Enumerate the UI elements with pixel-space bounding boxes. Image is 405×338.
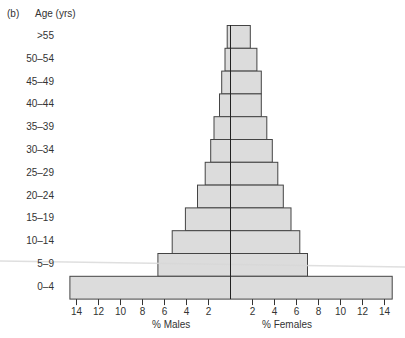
population-pyramid-chart bbox=[0, 0, 405, 338]
bar-4 bbox=[214, 117, 267, 140]
age-group-label: 35–39 bbox=[0, 121, 54, 132]
age-group-label: 10–14 bbox=[0, 235, 54, 246]
x-tick-label-males: 2 bbox=[199, 306, 219, 317]
x-tick-label-males: 8 bbox=[133, 306, 153, 317]
bar-1 bbox=[225, 48, 257, 71]
panel-label: (b) bbox=[7, 8, 19, 19]
x-tick-label-males: 10 bbox=[111, 306, 131, 317]
bar-5 bbox=[211, 140, 273, 163]
age-group-label: 50–54 bbox=[0, 53, 54, 64]
x-tick-label-females: 2 bbox=[243, 306, 263, 317]
age-group-label: 20–24 bbox=[0, 190, 54, 201]
age-group-label: 25–29 bbox=[0, 167, 54, 178]
x-tick-label-males: 12 bbox=[89, 306, 109, 317]
age-group-label: 0–4 bbox=[0, 281, 54, 292]
bar-8 bbox=[185, 208, 291, 231]
bar-3 bbox=[220, 94, 262, 117]
bar-2 bbox=[222, 71, 262, 94]
x-tick-label-females: 6 bbox=[287, 306, 307, 317]
x-tick-label-females: 14 bbox=[375, 306, 395, 317]
x-tick-label-males: 6 bbox=[155, 306, 175, 317]
x-tick-label-females: 8 bbox=[309, 306, 329, 317]
bars-group bbox=[70, 26, 392, 300]
age-group-label: 45–49 bbox=[0, 76, 54, 87]
x-axis-ticks bbox=[77, 299, 385, 305]
age-group-label: 15–19 bbox=[0, 212, 54, 223]
y-axis-title: Age (yrs) bbox=[35, 8, 76, 19]
x-tick-label-females: 12 bbox=[353, 306, 373, 317]
bar-9 bbox=[172, 231, 300, 254]
age-group-label: 40–44 bbox=[0, 98, 54, 109]
x-axis-title-females: % Females bbox=[262, 319, 312, 330]
age-group-label: 5–9 bbox=[0, 258, 54, 269]
bar-11 bbox=[70, 276, 392, 299]
x-tick-label-males: 14 bbox=[67, 306, 87, 317]
x-tick-label-females: 4 bbox=[265, 306, 285, 317]
x-axis-title-males: % Males bbox=[152, 319, 190, 330]
bar-6 bbox=[205, 162, 278, 185]
age-group-label: >55 bbox=[0, 30, 54, 41]
x-tick-label-males: 4 bbox=[177, 306, 197, 317]
age-group-label: 30–34 bbox=[0, 144, 54, 155]
x-tick-label-females: 10 bbox=[331, 306, 351, 317]
bar-7 bbox=[198, 185, 284, 208]
